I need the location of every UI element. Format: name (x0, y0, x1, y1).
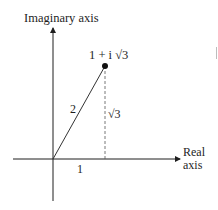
imaginary-axis-label: Imaginary axis (24, 12, 99, 24)
point-marker (102, 63, 108, 69)
real-axis-label-line1: Real (183, 146, 205, 158)
base-label: 1 (77, 163, 83, 175)
modulus-segment (53, 66, 105, 159)
diagram-graphics (0, 0, 218, 210)
modulus-label: 2 (70, 103, 76, 115)
complex-plane-diagram: Imaginary axis 1 + i √3 2 √3 1 Real axis (0, 0, 218, 210)
real-axis-label-line2: axis (183, 159, 202, 171)
point-label: 1 + i √3 (89, 49, 128, 61)
height-label: √3 (108, 108, 121, 120)
edge-divider (216, 47, 217, 59)
